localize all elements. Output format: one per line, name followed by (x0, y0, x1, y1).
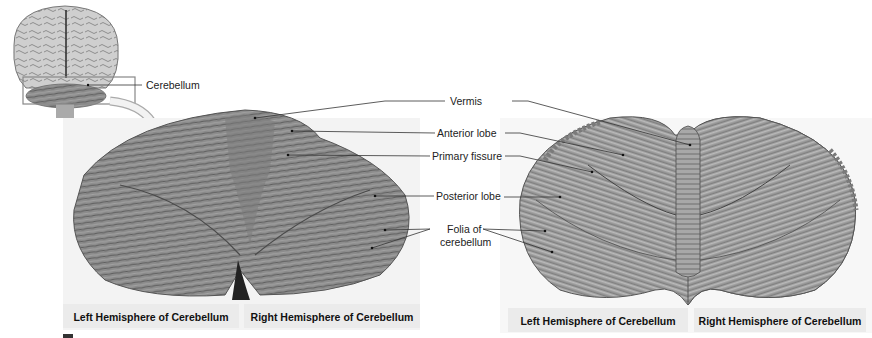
primary-fissure-label: Primary fissure (432, 150, 502, 162)
illustration-left-hemisphere-caption: Left Hemisphere of Cerebellum (508, 308, 688, 332)
vermis-label: Vermis (450, 95, 482, 107)
illustrated-cerebellum (520, 117, 857, 305)
folia-label-line2: cerebellum (440, 236, 491, 248)
illustration-right-hemisphere-caption: Right Hemisphere of Cerebellum (694, 308, 866, 332)
figure-marker (63, 334, 73, 338)
photo-right-hemisphere-caption: Right Hemisphere of Cerebellum (244, 304, 420, 328)
inset-brain (14, 6, 160, 132)
folia-label-line1: Folia of (447, 223, 481, 235)
cerebellum-diagram-graphics (0, 0, 872, 338)
photo-left-hemisphere-caption: Left Hemisphere of Cerebellum (63, 304, 239, 328)
anterior-lobe-label: Anterior lobe (437, 127, 497, 139)
inset-cerebellum-label: Cerebellum (146, 79, 200, 91)
posterior-lobe-label: Posterior lobe (436, 190, 501, 202)
